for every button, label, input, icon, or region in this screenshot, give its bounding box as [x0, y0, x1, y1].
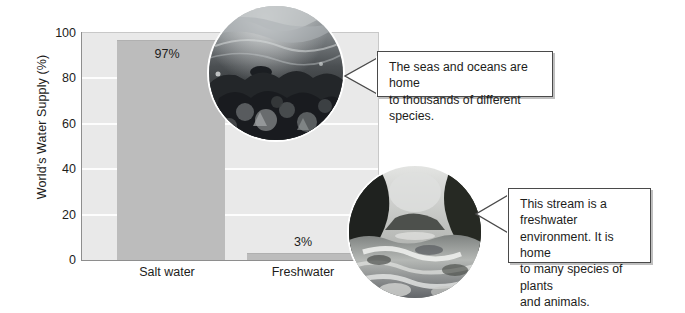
ocean-callout-line-1: The seas and oceans are home — [389, 59, 543, 92]
bar-value-label-salt-water: 97% — [154, 47, 179, 61]
y-tick-label-0: 0 — [42, 253, 76, 267]
ocean-callout: The seas and oceans are home to thousand… — [377, 51, 553, 97]
y-axis-line — [81, 32, 82, 261]
x-axis-line — [81, 260, 379, 261]
y-tick-label-40: 40 — [42, 162, 76, 176]
y-tick-label-80: 80 — [42, 71, 76, 85]
underwater-coral-reef-photo — [209, 6, 343, 140]
stream-callout-line-4: and animals. — [520, 294, 641, 310]
stream-callout: This stream is a freshwater environment.… — [508, 188, 651, 263]
stream-image — [349, 166, 481, 298]
bar-value-label-freshwater: 3% — [294, 235, 312, 249]
freshwater-stream-photo — [349, 166, 481, 298]
y-tick-label-60: 60 — [42, 117, 76, 131]
x-tick-label-salt-water: Salt water — [139, 265, 195, 279]
stream-callout-line-3: to many species of plants — [520, 261, 641, 294]
stream-callout-line-2: environment. It is home — [520, 229, 641, 262]
water-supply-figure: World's Water Supply (%) 100 80 60 40 20… — [0, 0, 685, 313]
y-tick-label-100: 100 — [42, 26, 76, 40]
bar-freshwater — [247, 253, 355, 260]
coral-reef-image — [209, 6, 343, 140]
stream-callout-line-1: This stream is a freshwater — [520, 196, 641, 229]
x-tick-label-freshwater: Freshwater — [272, 265, 335, 279]
ocean-callout-line-2: to thousands of different species. — [389, 92, 543, 125]
y-tick-label-20: 20 — [42, 208, 76, 222]
